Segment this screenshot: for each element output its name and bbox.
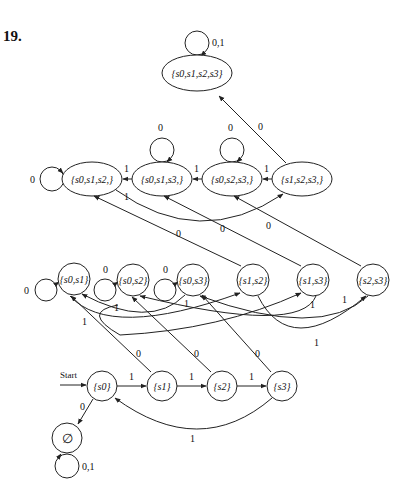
s03-to-s01-label: 1 [184, 298, 189, 309]
s23-to-s03-label: 1 [342, 294, 347, 305]
s3-to-s03-label: 0 [255, 348, 260, 359]
s01-loop-label: 0 [24, 285, 29, 296]
state-s012-label: {s0,s1,s2,} [71, 174, 113, 185]
s0-to-empty-label: 0 [80, 401, 85, 412]
s13-to-s013-label: 0 [220, 223, 225, 234]
s12-to-s012-label: 0 [176, 228, 181, 239]
s02-loop-label: 0 [103, 264, 108, 275]
all-self-loop [185, 31, 209, 55]
state-s123-label: {s1,s2,s3,} [281, 174, 323, 185]
s0-to-s1-label: 1 [129, 371, 134, 382]
s1-to-s01-label: 0 [136, 348, 141, 359]
s1-to-s2-label: 1 [189, 371, 194, 382]
state-s2-label: {s2} [214, 381, 231, 392]
state-all-label: {s0,s1,s2,s3} [171, 68, 222, 79]
s01-to-s12-label: 1 [82, 316, 87, 327]
empty-loop-label: 0,1 [82, 461, 95, 472]
s012-to-s123-label: 1 [124, 191, 129, 202]
state-s03-label: {s0,s3} [179, 275, 207, 286]
state-s12-label: {s1,s2} [239, 275, 267, 286]
s12-to-s23-label: 1 [314, 337, 319, 348]
state-s13-label: {s1,s3} [299, 275, 327, 286]
s23-to-s023-label: 0 [266, 220, 271, 231]
s2-to-s02-label: 0 [194, 348, 199, 359]
state-s023-label: {s0,s2,s3,} [211, 174, 253, 185]
s012-loop-label: 0 [30, 174, 35, 185]
state-empty-label: ∅ [62, 431, 73, 446]
state-s23-label: {s2,s3} [359, 275, 387, 286]
state-s02-label: {s0,s2} [119, 275, 147, 286]
s123-to-s023-label: 1 [264, 163, 269, 174]
s023-loop-label: 0 [228, 122, 233, 133]
state-s0-label: {s0} [94, 381, 111, 392]
s123-to-all-label: 0 [258, 121, 263, 132]
s13-to-s02-label: 1 [310, 299, 315, 310]
state-s01-label: {s0,s1} [60, 274, 88, 285]
state-diagram: 0,1 {s0,s1,s2,s3} 0 0 {s0,s1,s2,} 0 {s0,… [0, 0, 410, 495]
all-loop-label: 0,1 [212, 37, 225, 48]
state-s013-label: {s0,s1,s3,} [141, 174, 183, 185]
s2-to-s3-label: 1 [249, 371, 254, 382]
s03-loop-label: 0 [163, 264, 168, 275]
state-s1-label: {s1} [154, 381, 171, 392]
s013-loop-label: 0 [158, 122, 163, 133]
s023-to-s013-label: 1 [194, 163, 199, 174]
state-s3-label: {s3} [274, 381, 291, 392]
s3-to-s0-label: 1 [190, 433, 195, 444]
start-label: Start [60, 370, 77, 380]
s013-to-s012-label: 1 [124, 163, 129, 174]
